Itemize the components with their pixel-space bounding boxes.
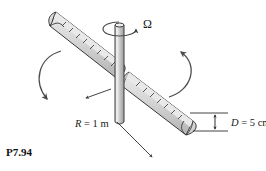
- diameter-label: D = 5 cm: [230, 117, 266, 128]
- radius-value: = 1 m: [81, 118, 108, 129]
- figure-container: Ω R = 1 m D = 5 cm P7.94: [0, 0, 266, 171]
- radius-label: R = 1 m: [74, 118, 109, 129]
- rotation-arrow-right: [169, 52, 191, 97]
- sprinkler-diagram: Ω R = 1 m D = 5 cm P7.94: [0, 0, 266, 171]
- lower-right-arm-highlight: [126, 72, 193, 127]
- rotation-arrow-left: [39, 51, 61, 99]
- radius-leader-upper: [86, 89, 111, 98]
- vertical-shaft: [115, 23, 124, 124]
- omega-label: Ω: [143, 17, 152, 31]
- problem-id-label: P7.94: [6, 146, 32, 158]
- radius-leader-lower: [117, 122, 152, 157]
- upper-left-arm-highlight: [53, 12, 122, 69]
- shaft-top-cap: [115, 23, 124, 27]
- shaft-body: [115, 25, 124, 124]
- diameter-value: = 5 cm: [239, 117, 266, 128]
- diameter-dimension: D = 5 cm: [190, 113, 266, 131]
- lower-right-arm: [121, 72, 196, 135]
